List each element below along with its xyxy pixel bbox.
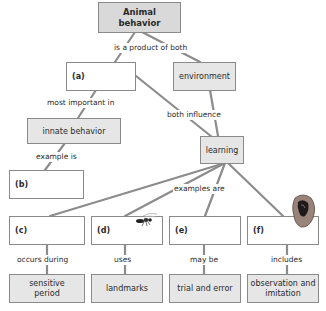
- node-observation-line1: observation and: [251, 279, 316, 289]
- wasp-icon: [135, 213, 159, 227]
- link-label-most-important: most important in: [46, 98, 115, 108]
- node-observation-line2: imitation: [265, 289, 301, 299]
- node-landmarks: landmarks: [91, 274, 163, 303]
- node-sensitive-line1: sensitive: [29, 279, 65, 289]
- node-c: (c): [9, 216, 85, 245]
- link-label-includes: includes: [270, 255, 303, 265]
- root-line2: behavior: [118, 18, 160, 29]
- node-sensitive-period: sensitive period: [9, 274, 85, 303]
- node-b: (b): [9, 170, 84, 199]
- link-label-occurs-during: occurs during: [16, 255, 69, 265]
- link-label-uses: uses: [113, 255, 132, 265]
- link-label-example-is: example is: [35, 152, 78, 162]
- ear-icon: [289, 194, 317, 230]
- node-landmarks-label: landmarks: [106, 284, 148, 293]
- node-b-label: (b): [15, 180, 28, 189]
- node-a-label: (a): [72, 72, 85, 81]
- link-label-both-influence: both influence: [166, 110, 222, 120]
- link-label-may-be: may be: [189, 255, 219, 265]
- node-a: (a): [66, 62, 136, 91]
- node-c-label: (c): [15, 226, 27, 235]
- node-sensitive-line2: period: [34, 289, 59, 299]
- node-d-label: (d): [97, 226, 110, 235]
- node-innate-label: innate behavior: [43, 127, 106, 136]
- link-label-examples-are: examples are: [173, 184, 226, 194]
- node-learning-label: learning: [206, 146, 239, 155]
- node-innate-behavior: innate behavior: [27, 118, 121, 144]
- link-label-product: is a product of both: [113, 43, 188, 53]
- node-trial-and-error: trial and error: [169, 274, 241, 303]
- node-environment: environment: [173, 62, 236, 91]
- node-observation-imitation: observation and imitation: [247, 274, 319, 303]
- node-trial-label: trial and error: [177, 284, 232, 293]
- node-environment-label: environment: [179, 72, 230, 81]
- node-e: (e): [169, 216, 241, 245]
- root-line1: Animal: [123, 7, 156, 18]
- node-animal-behavior: Animal behavior: [98, 2, 181, 33]
- node-f-label: (f): [253, 226, 264, 235]
- node-learning: learning: [200, 136, 244, 164]
- node-e-label: (e): [175, 226, 188, 235]
